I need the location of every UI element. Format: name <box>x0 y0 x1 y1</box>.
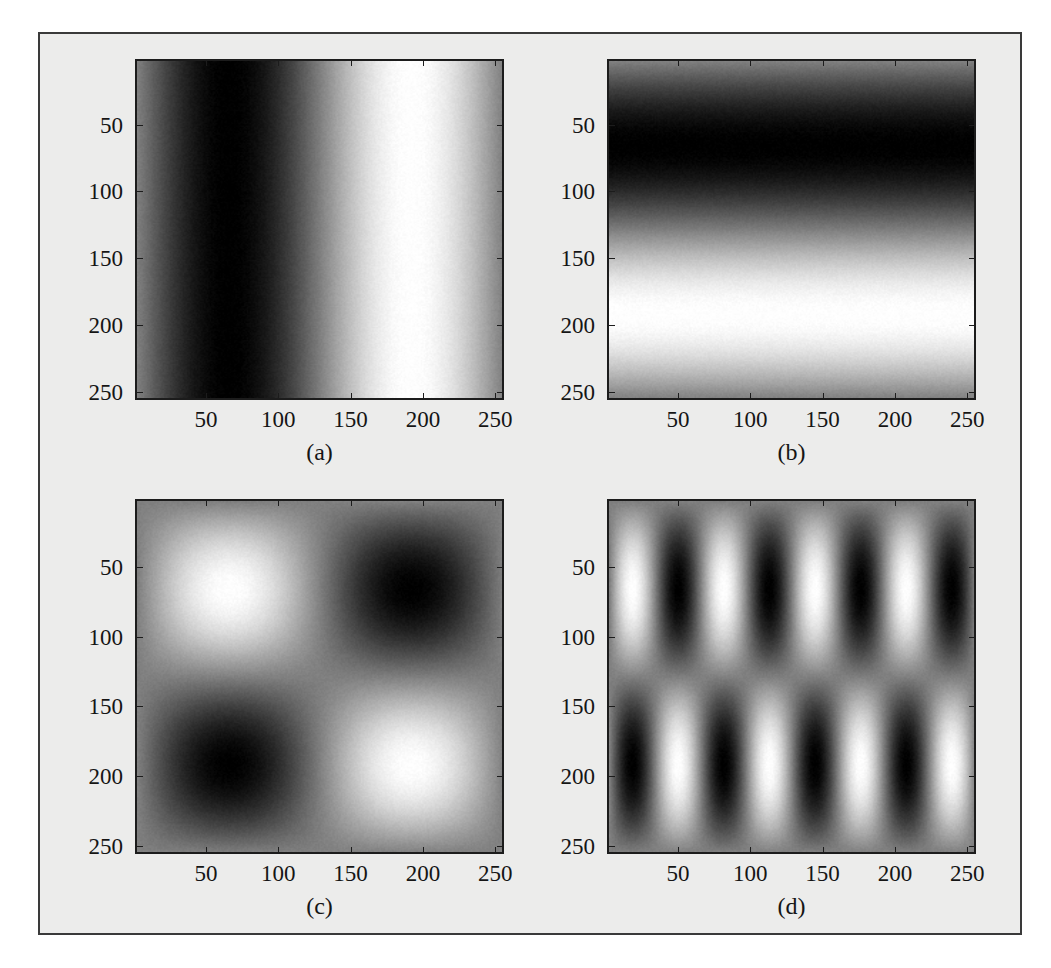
y-tick-mark-right <box>497 325 502 326</box>
x-tick-label: 100 <box>733 862 768 885</box>
y-tick-mark <box>609 191 615 192</box>
y-tick-label: 250 <box>57 834 123 857</box>
figure-frame: 5010015020025050100150200250(a)501001502… <box>38 32 1022 935</box>
y-tick-mark <box>137 567 143 568</box>
x-tick-mark-top <box>967 501 968 506</box>
y-tick-label: 250 <box>529 834 595 857</box>
x-tick-label: 250 <box>478 408 513 431</box>
y-tick-mark <box>137 392 143 393</box>
panel-c-checkerboard-sinusoid: 5010015020025050100150200250(c) <box>135 499 504 854</box>
x-tick-label: 50 <box>194 408 217 431</box>
y-tick-mark <box>137 776 143 777</box>
x-tick-label: 100 <box>733 408 768 431</box>
x-tick-mark-top <box>678 61 679 66</box>
y-tick-mark-right <box>969 846 974 847</box>
y-tick-label: 50 <box>57 113 123 136</box>
x-tick-label: 100 <box>261 408 296 431</box>
y-tick-label: 100 <box>529 180 595 203</box>
y-tick-mark-right <box>497 846 502 847</box>
y-tick-mark <box>609 125 615 126</box>
panel-a-vertical-sinusoid: 5010015020025050100150200250(a) <box>135 59 504 400</box>
x-tick-label: 250 <box>950 408 985 431</box>
panel-b-horizontal-sinusoid-axes: 5010015020025050100150200250 <box>607 59 976 400</box>
x-tick-mark <box>351 393 352 399</box>
x-tick-mark-top <box>351 501 352 506</box>
x-tick-mark <box>678 847 679 853</box>
y-tick-mark <box>137 258 143 259</box>
y-tick-label: 150 <box>57 247 123 270</box>
panel-b-horizontal-sinusoid: 5010015020025050100150200250(b) <box>607 59 976 400</box>
y-tick-mark <box>137 325 143 326</box>
y-tick-mark-right <box>497 258 502 259</box>
y-tick-label: 150 <box>529 695 595 718</box>
y-tick-label: 150 <box>529 247 595 270</box>
y-tick-mark <box>609 846 615 847</box>
x-tick-mark-top <box>967 61 968 66</box>
y-tick-mark-right <box>969 392 974 393</box>
y-tick-label: 250 <box>57 380 123 403</box>
y-tick-label: 100 <box>57 625 123 648</box>
y-tick-mark <box>137 125 143 126</box>
x-tick-label: 200 <box>878 862 913 885</box>
x-tick-label: 50 <box>666 862 689 885</box>
x-tick-mark-top <box>895 61 896 66</box>
y-tick-label: 50 <box>57 556 123 579</box>
x-tick-mark <box>278 393 279 399</box>
x-tick-mark <box>967 847 968 853</box>
x-tick-label: 200 <box>406 408 441 431</box>
x-tick-mark <box>895 393 896 399</box>
x-tick-label: 200 <box>406 862 441 885</box>
y-tick-mark-right <box>497 567 502 568</box>
x-tick-mark <box>495 847 496 853</box>
y-tick-mark <box>609 637 615 638</box>
y-tick-mark <box>609 392 615 393</box>
y-tick-mark <box>137 706 143 707</box>
x-tick-label: 250 <box>478 862 513 885</box>
panel-a-vertical-sinusoid-axes: 5010015020025050100150200250 <box>135 59 504 400</box>
x-tick-mark <box>423 393 424 399</box>
x-tick-mark-top <box>206 61 207 66</box>
y-tick-mark-right <box>497 125 502 126</box>
y-tick-mark-right <box>969 637 974 638</box>
x-tick-mark <box>278 847 279 853</box>
y-tick-label: 250 <box>529 380 595 403</box>
x-tick-mark <box>967 393 968 399</box>
y-tick-label: 50 <box>529 113 595 136</box>
x-tick-mark-top <box>495 501 496 506</box>
x-tick-mark <box>823 847 824 853</box>
y-tick-mark <box>609 567 615 568</box>
x-tick-mark <box>423 847 424 853</box>
y-tick-mark-right <box>969 567 974 568</box>
x-tick-label: 150 <box>333 862 368 885</box>
x-tick-mark <box>678 393 679 399</box>
y-tick-label: 100 <box>529 625 595 648</box>
y-tick-mark <box>609 776 615 777</box>
x-tick-mark-top <box>351 61 352 66</box>
y-tick-label: 200 <box>529 765 595 788</box>
panel-grid: 5010015020025050100150200250(a)501001502… <box>40 34 1020 933</box>
x-tick-mark-top <box>278 501 279 506</box>
y-tick-mark <box>609 706 615 707</box>
x-tick-mark-top <box>823 61 824 66</box>
y-tick-label: 200 <box>529 314 595 337</box>
x-tick-mark <box>750 847 751 853</box>
panel-caption-a: (a) <box>306 440 333 464</box>
y-tick-label: 150 <box>57 695 123 718</box>
x-tick-mark <box>206 847 207 853</box>
y-tick-mark-right <box>497 191 502 192</box>
x-tick-label: 250 <box>950 862 985 885</box>
x-tick-mark <box>895 847 896 853</box>
x-tick-label: 50 <box>194 862 217 885</box>
y-tick-mark <box>609 325 615 326</box>
panel-c-checkerboard-sinusoid-axes: 5010015020025050100150200250 <box>135 499 504 854</box>
x-tick-mark <box>495 393 496 399</box>
x-tick-label: 150 <box>805 862 840 885</box>
y-tick-mark-right <box>969 125 974 126</box>
panel-caption-d: (d) <box>778 894 806 918</box>
y-tick-mark-right <box>497 392 502 393</box>
x-tick-label: 150 <box>333 408 368 431</box>
panel-caption-c: (c) <box>306 894 333 918</box>
x-tick-mark-top <box>495 61 496 66</box>
y-tick-mark-right <box>969 325 974 326</box>
x-tick-mark-top <box>678 501 679 506</box>
